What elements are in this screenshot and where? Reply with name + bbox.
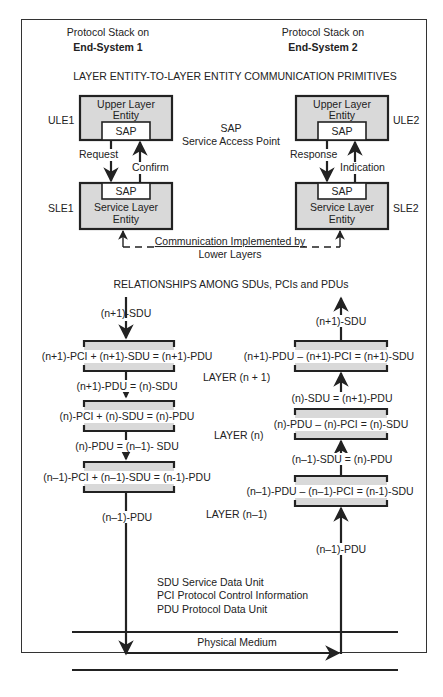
right-between-2: (n–1)-SDU = (n)-PDU bbox=[292, 453, 393, 465]
right-eq-nm1: (n–1)-PDU – (n–1)-PCI = (n-1)-SDU bbox=[246, 485, 413, 497]
section1-title: LAYER ENTITY-TO-LAYER ENTITY COMMUNICATI… bbox=[73, 70, 397, 82]
ule1-box: Upper Layer Entity SAP bbox=[80, 96, 172, 140]
right-out-label: (n+1)-SDU bbox=[316, 315, 366, 327]
ule2-box: Upper Layer Entity SAP bbox=[296, 96, 388, 140]
layer-label-n: LAYER (n) bbox=[214, 429, 263, 441]
right-in-label: (n–1)-PDU bbox=[316, 543, 366, 555]
right-between-1: (n)-SDU = (n+1)-PDU bbox=[292, 392, 393, 404]
left-between-2: (n)-PDU = (n–1)- SDU bbox=[75, 440, 179, 452]
legend-pdu: PDU Protocol Data Unit bbox=[157, 603, 267, 615]
sap-description: Service Access Point bbox=[182, 135, 280, 147]
physical-medium-label: Physical Medium bbox=[197, 636, 277, 648]
legend-pci: PCI Protocol Control Information bbox=[157, 589, 308, 601]
section2-title: RELATIONSHIPS AMONG SDUs, PCIs and PDUs bbox=[114, 278, 349, 290]
protocol-stack-diagram: Protocol Stack on End-System 1 Protocol … bbox=[0, 0, 443, 697]
ule2-sap: SAP bbox=[331, 125, 352, 137]
legend-sdu: SDU Service Data Unit bbox=[157, 576, 264, 588]
left-eq-n: (n)-PCI + (n)-SDU = (n)-PDU bbox=[60, 410, 195, 422]
layer-label-nm1: LAYER (n–1) bbox=[206, 508, 267, 520]
sle1-line1: Service Layer bbox=[94, 201, 159, 213]
layer-label-n1: LAYER (n + 1) bbox=[203, 371, 270, 383]
header-left-line1: Protocol Stack on bbox=[67, 26, 149, 38]
sle1-tag: SLE1 bbox=[48, 202, 74, 214]
sle2-line2: Entity bbox=[329, 213, 356, 225]
response-label: Response bbox=[290, 148, 337, 160]
left-eq-nm1: (n–1)-PCI + (n–1)-SDU = (n-1)-PDU bbox=[43, 471, 210, 483]
left-eq-n1: (n+1)-PCI + (n+1)-SDU = (n+1)-PDU bbox=[42, 350, 213, 362]
left-layer-nm1-box: (n–1)-PCI + (n–1)-SDU = (n-1)-PDU bbox=[30, 462, 211, 492]
ule2-line2: Entity bbox=[329, 109, 356, 121]
right-layer-n1-box: (n+1)-PDU – (n+1)-PCI = (n+1)-SDU bbox=[236, 341, 422, 371]
request-label: Request bbox=[79, 148, 118, 160]
sle1-box: SAP Service Layer Entity bbox=[80, 183, 172, 229]
indication-label: Indication bbox=[340, 161, 385, 173]
lower-layers-line2: Lower Layers bbox=[198, 248, 261, 260]
header-left-line2: End-System 1 bbox=[73, 41, 143, 53]
right-eq-n: (n)-PDU – (n)-PCI = (n)-SDU bbox=[274, 418, 408, 430]
sle2-tag: SLE2 bbox=[393, 202, 419, 214]
ule1-sap: SAP bbox=[115, 125, 136, 137]
sle1-line2: Entity bbox=[113, 213, 140, 225]
lower-layers-line1: Communication Implemented by bbox=[155, 235, 306, 247]
left-layer-n-box: (n)-PCI + (n)-SDU = (n)-PDU bbox=[50, 401, 204, 431]
sle2-box: SAP Service Layer Entity bbox=[296, 183, 388, 229]
left-in-label: (n+1)-SDU bbox=[101, 307, 151, 319]
left-out-label: (n–1)-PDU bbox=[102, 511, 152, 523]
header-right-line1: Protocol Stack on bbox=[282, 26, 364, 38]
left-layer-n1-box: (n+1)-PCI + (n+1)-SDU = (n+1)-PDU bbox=[30, 341, 212, 371]
ule1-tag: ULE1 bbox=[48, 114, 74, 126]
right-eq-n1: (n+1)-PDU – (n+1)-PCI = (n+1)-SDU bbox=[244, 350, 414, 362]
sle2-line1: Service Layer bbox=[310, 201, 375, 213]
sle1-sap: SAP bbox=[115, 185, 136, 197]
sap-label: SAP bbox=[220, 122, 241, 134]
sle2-sap: SAP bbox=[331, 185, 352, 197]
right-layer-n-box: (n)-PDU – (n)-PCI = (n)-SDU bbox=[264, 409, 422, 439]
header-right-line2: End-System 2 bbox=[288, 41, 358, 53]
left-between-1: (n+1)-PDU = (n)-SDU bbox=[77, 380, 178, 392]
confirm-label: Confirm bbox=[132, 161, 169, 173]
ule1-line2: Entity bbox=[113, 109, 140, 121]
right-layer-nm1-box: (n–1)-PDU – (n–1)-PCI = (n-1)-SDU bbox=[238, 476, 424, 506]
ule2-tag: ULE2 bbox=[393, 114, 419, 126]
